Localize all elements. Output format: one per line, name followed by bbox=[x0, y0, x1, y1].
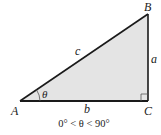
right-triangle-diagram: A B C c a b θ 0° < θ < 90° bbox=[0, 0, 161, 135]
angle-theta-label: θ bbox=[42, 88, 48, 100]
side-c-label: c bbox=[75, 44, 81, 58]
vertex-b-label: B bbox=[144, 0, 152, 14]
vertex-a-label: A bbox=[10, 104, 19, 118]
side-b-label: b bbox=[84, 102, 90, 116]
vertex-c-label: C bbox=[144, 104, 153, 118]
angle-range-caption: 0° < θ < 90° bbox=[58, 118, 110, 129]
side-a-label: a bbox=[151, 52, 157, 66]
triangle-canvas: A B C c a b θ 0° < θ < 90° bbox=[0, 0, 161, 135]
